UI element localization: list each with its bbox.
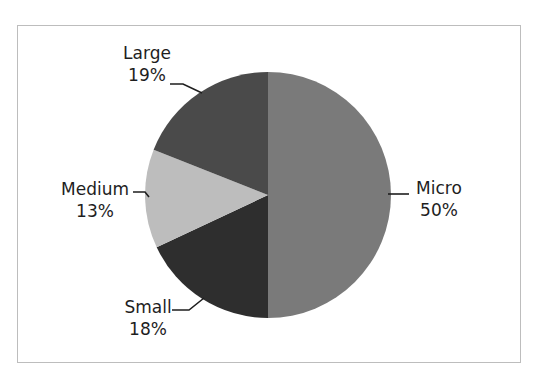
label-medium: Medium 13% [58,178,132,222]
label-large-name: Large [118,42,176,64]
label-small-pct: 18% [120,318,176,340]
label-micro: Micro 50% [408,177,470,221]
label-micro-name: Micro [408,177,470,199]
label-large: Large 19% [118,42,176,86]
label-large-pct: 19% [118,64,176,86]
label-medium-name: Medium [58,178,132,200]
label-micro-pct: 50% [408,199,470,221]
leader-line-small [172,298,204,310]
label-small: Small 18% [120,296,176,340]
pie-slice-micro [268,72,391,318]
label-medium-pct: 13% [58,200,132,222]
label-small-name: Small [120,296,176,318]
